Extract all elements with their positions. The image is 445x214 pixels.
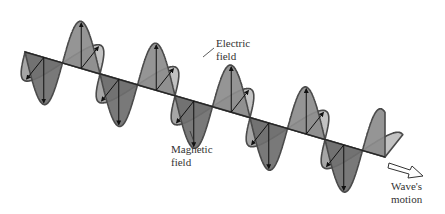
magnetic-label-line2: field (171, 156, 213, 169)
wave-label-line1: Wave's (391, 180, 422, 193)
electric-label-line1: Electric (216, 37, 250, 50)
electric-leader-line (203, 48, 214, 57)
electric-lobe (363, 109, 386, 157)
wave-illustration (0, 0, 445, 214)
magnetic-label-line1: Magnetic (171, 143, 213, 156)
wave-label-line2: motion (391, 193, 422, 206)
electric-label-line2: field (216, 50, 250, 63)
em-wave-diagram: Electric field Magnetic field Wave's mot… (0, 0, 445, 214)
wave-direction-arrow-icon (388, 163, 423, 178)
magnetic-field-label: Magnetic field (171, 143, 213, 169)
electric-field-label: Electric field (216, 37, 250, 63)
propagation-axis (25, 52, 385, 157)
wave-motion-label: Wave's motion (391, 180, 422, 206)
